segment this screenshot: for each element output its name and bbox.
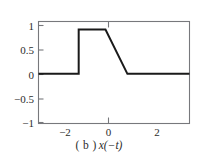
y-tick-label-0: 0 — [29, 69, 35, 81]
x-tick-label-2: 2 — [154, 126, 160, 138]
y-tick-label-m0p5: −0.5 — [14, 93, 34, 105]
figure-caption: ( b )x(−t) — [0, 139, 198, 151]
figure-caption-label: ( b ) — [76, 139, 97, 151]
figure-page: 1 0.5 0 −0.5 −1 −2 0 2 ( b )x(−t) — [0, 0, 198, 165]
x-tick-label-0: 0 — [106, 126, 112, 138]
signal-waveform — [39, 29, 190, 73]
y-tick-label-m1: −1 — [22, 117, 34, 129]
y-tick-label-1: 1 — [29, 20, 35, 32]
signal-plot-figure: 1 0.5 0 −0.5 −1 −2 0 2 ( b )x(−t) — [0, 0, 198, 165]
y-tick-label-0p5: 0.5 — [20, 44, 34, 56]
x-tick-label-m2: −2 — [59, 126, 71, 138]
plot-frame — [39, 22, 190, 124]
figure-caption-expression: x(−t) — [99, 139, 123, 151]
